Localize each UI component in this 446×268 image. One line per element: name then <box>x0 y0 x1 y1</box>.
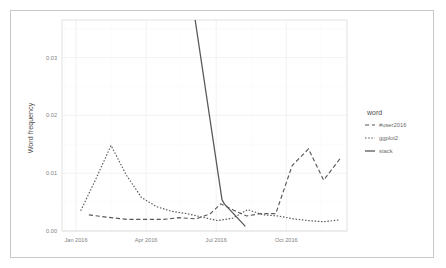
legend-label-user2016[interactable]: #user2016 <box>379 122 406 128</box>
legend: word #user2016ggplot2stack <box>365 109 406 154</box>
grid-layer <box>62 20 347 231</box>
y-tick-label: 0.02 <box>46 112 57 118</box>
legend-label-stack[interactable]: stack <box>379 148 393 154</box>
x-tick-label: Oct 2016 <box>275 237 298 243</box>
y-tick-label: 0.00 <box>46 228 57 234</box>
x-tick-label: Jan 2016 <box>65 237 88 243</box>
y-axis-title: Word frequency <box>26 102 35 153</box>
legend-title: word <box>366 109 382 116</box>
x-axis-tick-labels: Jan 2016Apr 2016Jul 2016Oct 2016 <box>65 237 298 243</box>
x-tick-label: Jul 2016 <box>206 237 227 243</box>
line-chart: 0.000.010.020.03 Jan 2016Apr 2016Jul 201… <box>0 0 446 268</box>
y-axis-tick-labels: 0.000.010.020.03 <box>46 55 57 234</box>
y-tick-label: 0.03 <box>46 55 57 61</box>
legend-label-ggplot2[interactable]: ggplot2 <box>379 135 398 141</box>
chart-plot-area: 0.000.010.020.03 Jan 2016Apr 2016Jul 201… <box>0 0 446 268</box>
x-tick-label: Apr 2016 <box>135 237 158 243</box>
y-tick-label: 0.01 <box>46 170 57 176</box>
